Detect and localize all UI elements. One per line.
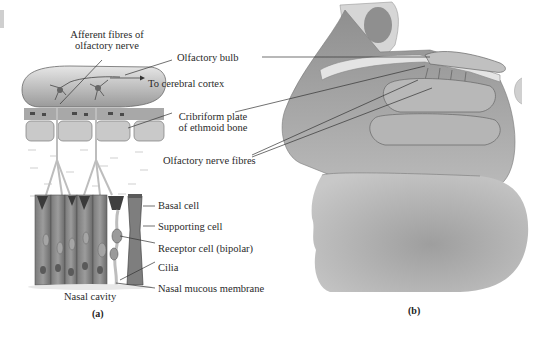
label-cribriform-plate: Cribriform plate of ethmoid bone	[175, 111, 251, 133]
label-receptor-cell: Receptor cell (bipolar)	[158, 243, 253, 254]
label-cilia: Cilia	[158, 262, 178, 273]
lower-face-shape	[312, 173, 529, 292]
edge-mark	[0, 10, 4, 28]
olfactory-epithelium	[28, 194, 152, 290]
label-olfactory-nerve-fibres: Olfactory nerve fibres	[163, 155, 256, 166]
panel-b-illustration	[282, 2, 528, 292]
label-olfactory-bulb: Olfactory bulb	[177, 52, 239, 63]
olfactory-bulb-shape	[22, 66, 166, 107]
basal-cell-shape	[108, 196, 124, 210]
superior-turbinate	[383, 78, 495, 112]
label-supporting-cell: Supporting cell	[158, 221, 222, 232]
lamina-propria	[28, 150, 148, 196]
caption-panel-a: (a)	[92, 308, 104, 319]
label-nasal-mucous-membrane: Nasal mucous membrane	[158, 283, 264, 294]
label-to-cerebral-cortex: To cerebral cortex	[148, 78, 224, 89]
label-basal-cell: Basal cell	[158, 200, 199, 211]
panel-a-illustration	[22, 66, 166, 290]
label-nasal-cavity: Nasal cavity	[64, 291, 116, 302]
caption-panel-b: (b)	[408, 305, 420, 316]
supporting-cell-shape	[127, 196, 143, 285]
middle-turbinate	[370, 114, 500, 145]
label-afferent-fibres: Afferent fibres of olfactory nerve	[62, 29, 152, 51]
